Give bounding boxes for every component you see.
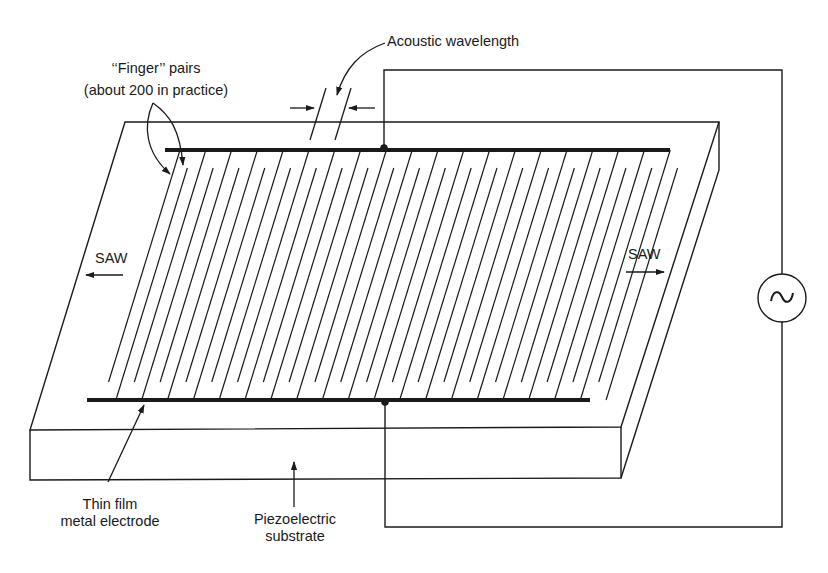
wavelength-marker — [290, 43, 385, 140]
finger-bottom — [142, 168, 213, 400]
electrode-pointer-arrow — [108, 405, 144, 482]
finger-top — [160, 150, 231, 382]
ac-source-icon — [758, 274, 806, 322]
finger-pairs-label: ‘‘Finger’’ pairs (about 200 in practice) — [66, 60, 246, 99]
finger-top — [547, 150, 618, 382]
finger-bottom — [193, 168, 264, 400]
finger-top — [496, 150, 567, 382]
finger-bottom — [451, 168, 522, 400]
finger-top — [238, 150, 309, 382]
finger-bottom — [297, 168, 368, 400]
finger-top — [341, 150, 412, 382]
finger-top — [134, 150, 205, 382]
top-junction-dot — [380, 144, 388, 152]
finger-bottom — [503, 168, 574, 400]
finger-top — [521, 150, 592, 382]
finger-top — [599, 150, 670, 382]
finger-bottom — [529, 168, 600, 400]
finger-bottom — [322, 168, 393, 400]
finger-top — [315, 150, 386, 382]
electrode-label-line2: metal electrode — [40, 513, 180, 530]
finger-top — [573, 150, 644, 382]
finger-bottom — [374, 168, 445, 400]
substrate-top-face — [30, 122, 719, 430]
substrate-label-line2: substrate — [230, 528, 360, 545]
wavelength-pointer-arrow — [337, 43, 385, 95]
finger-top — [470, 150, 541, 382]
interdigital-fingers — [109, 150, 678, 400]
finger-top — [263, 150, 334, 382]
finger-bottom — [348, 168, 419, 400]
substrate-front-face — [30, 427, 621, 480]
finger-top — [186, 150, 257, 382]
finger-top — [418, 150, 489, 382]
finger-top — [289, 150, 360, 382]
saw-left-label: SAW — [95, 250, 128, 267]
finger-top — [392, 150, 463, 382]
electrode-label: Thin film metal electrode — [40, 496, 180, 530]
finger-top — [444, 150, 515, 382]
finger-bottom — [400, 168, 471, 400]
finger-top — [367, 150, 438, 382]
finger-bottom — [245, 168, 316, 400]
saw-right-label: SAW — [628, 246, 661, 263]
finger-bottom — [426, 168, 497, 400]
finger-pairs-label-line2: (about 200 in practice) — [66, 82, 246, 99]
acoustic-wavelength-label: Acoustic wavelength — [387, 33, 519, 50]
finger-bottom — [219, 168, 290, 400]
substrate-label-line1: Piezoelectric — [230, 511, 360, 528]
finger-top — [212, 150, 283, 382]
finger-bottom — [271, 168, 342, 400]
finger-bottom — [168, 168, 239, 400]
finger-pairs-pointer — [147, 103, 183, 174]
substrate-side-face — [621, 122, 719, 478]
finger-bottom — [116, 168, 187, 400]
finger-bottom — [477, 168, 548, 400]
substrate-label: Piezoelectric substrate — [230, 511, 360, 545]
finger-bottom — [555, 168, 626, 400]
electrode-label-line1: Thin film — [40, 496, 180, 513]
bottom-junction-dot — [381, 398, 389, 406]
finger-pairs-label-line1: ‘‘Finger’’ pairs — [66, 60, 246, 77]
electrodes — [87, 150, 670, 400]
